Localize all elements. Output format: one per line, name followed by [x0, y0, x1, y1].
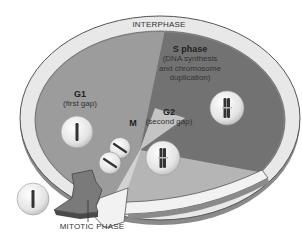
- mitotic-phase-label: MITOTIC PHASE: [52, 222, 132, 231]
- m-label: M: [126, 118, 140, 128]
- g2-title: G: [163, 107, 170, 117]
- g2-subtitle: (second gap): [134, 117, 204, 126]
- s-cell: [210, 91, 244, 125]
- s-phase-subtitle-3: duplication): [150, 73, 230, 82]
- g2-title-subscript: 2: [170, 107, 175, 117]
- s-phase-subtitle-2: and chromosome: [150, 64, 230, 73]
- g1-subtitle: (first gap): [50, 99, 110, 108]
- s-phase-subtitle-1: (DNA synthesis: [150, 54, 230, 63]
- s-phase-title: S phase: [150, 44, 230, 54]
- g1-label: G1 (first gap): [50, 89, 110, 109]
- g1-title: G: [74, 89, 81, 99]
- g2-label: G2 (second gap): [134, 107, 204, 127]
- daughter-cell: [17, 183, 49, 215]
- s-phase-label: S phase (DNA synthesis and chromosome du…: [150, 44, 230, 82]
- g1-cell: [61, 116, 93, 148]
- interphase-label: INTERPHASE: [124, 20, 194, 29]
- g2-cell: [146, 141, 180, 175]
- g1-title-subscript: 1: [81, 89, 86, 99]
